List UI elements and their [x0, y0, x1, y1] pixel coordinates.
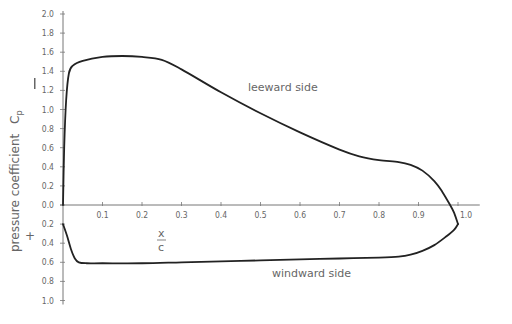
y-tick-label: 1.0 — [42, 296, 54, 306]
x-tick-label: 0.5 — [254, 210, 266, 220]
y-tick-label: 0.2 — [42, 219, 54, 229]
y-tick-label: 0.8 — [42, 276, 54, 286]
y-tick-label: 0.6 — [42, 143, 54, 153]
x-tick-label: 0.3 — [175, 210, 187, 220]
x-tick-label: 0.8 — [373, 210, 385, 220]
plus-sign-marker: + — [25, 229, 35, 243]
y-axis-label: pressure coefficient Cp — [8, 111, 24, 252]
y-tick-label: 2.0 — [42, 9, 54, 19]
y-axis-label-text: pressure coefficient — [8, 134, 22, 252]
minus-sign-marker — [34, 78, 36, 89]
x-tick-label: 0.4 — [215, 210, 227, 220]
x-axis-label: x c — [157, 227, 166, 254]
y-tick-label: 0.4 — [42, 162, 54, 172]
y-tick-label: 0.0 — [42, 200, 54, 210]
y-tick-label: 1.0 — [42, 105, 54, 115]
x-tick-label: 0.2 — [136, 210, 148, 220]
y-tick-label: 0.4 — [42, 238, 54, 248]
y-axis-symbol: Cp — [8, 111, 24, 124]
x-tick-label: 1.0 — [460, 210, 472, 220]
leeward-side-label: leeward side — [248, 81, 318, 94]
x-tick-label: 0.9 — [412, 210, 424, 220]
x-tick-label: 0.1 — [96, 210, 108, 220]
y-tick-label: 1.2 — [42, 85, 54, 95]
x-label-numerator: x — [158, 227, 165, 240]
windward-side-curve — [63, 224, 458, 263]
y-tick-label: 1.6 — [42, 47, 54, 57]
pressure-distribution-chart: 2.01.81.61.41.21.00.80.60.40.20.00.20.40… — [0, 0, 512, 324]
y-tick-label: 0.6 — [42, 257, 54, 267]
y-tick-label: 0.8 — [42, 124, 54, 134]
y-tick-label: 1.8 — [42, 28, 54, 38]
windward-side-label: windward side — [272, 267, 351, 280]
x-tick-label: 0.6 — [294, 210, 306, 220]
y-tick-label: 0.2 — [42, 181, 54, 191]
y-tick-label: 1.4 — [42, 66, 54, 76]
x-tick-label: 0.7 — [333, 210, 345, 220]
x-label-denominator: c — [158, 241, 164, 254]
